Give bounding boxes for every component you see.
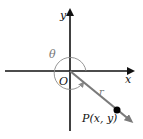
angle-label: θ [49,48,56,61]
origin-label: O [59,75,68,88]
polar-coordinates-diagram: y x O θ r P(x, y) [0,0,143,139]
y-axis-label: y [59,9,67,22]
point-label: P(x, y) [81,112,117,125]
x-axis-label: x [125,73,132,86]
radius-label: r [99,86,105,97]
